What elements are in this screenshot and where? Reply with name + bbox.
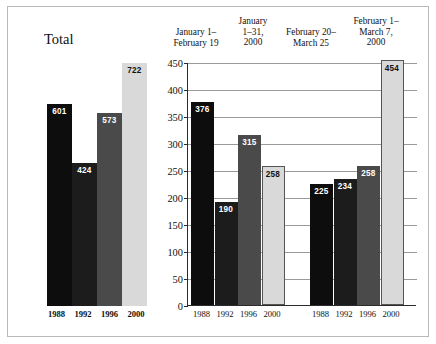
group1-bar-value-1988: 376 <box>191 105 214 114</box>
group2-bar-1988: 225 <box>310 184 333 306</box>
y-tick-label-200: 200 <box>153 193 183 204</box>
group1-bar-1988: 376 <box>191 102 214 305</box>
group2-bar-2000: 454 <box>381 60 404 305</box>
y-tick-350 <box>184 117 188 118</box>
y-tick-label-150: 150 <box>153 220 183 231</box>
total-panel-x-axis-labels: 1988199219962000 <box>44 309 150 323</box>
plot-x-axis-labels: 19881992199620001988199219962000 <box>187 309 419 323</box>
group2-bar-value-1996: 258 <box>357 169 380 178</box>
group1-bar-2000: 258 <box>262 166 285 305</box>
group1-bar-value-1996: 315 <box>238 138 261 147</box>
group1-bar-1996: 315 <box>238 135 261 305</box>
total-x-label-1988: 1988 <box>44 309 69 319</box>
plot-x-label-5: 1992 <box>332 309 356 319</box>
y-axis-tick-labels: 050100150200250300350400450 <box>151 63 183 306</box>
total-bar-value-1992: 424 <box>72 166 97 175</box>
group1-bar-value-2000: 258 <box>263 170 284 179</box>
group2-bar-1992: 234 <box>334 179 357 305</box>
y-tick-50 <box>184 279 188 280</box>
group1-bar-value-1992: 190 <box>215 205 238 214</box>
total-panel-bars: 601424573722 <box>47 50 147 306</box>
group2-bar-value-2000: 454 <box>382 64 403 73</box>
column-header-february-1-march-7-2000: February 1– March 7, 2000 <box>345 16 407 48</box>
column-header-january-1-february-19: January 1– February 19 <box>165 27 227 48</box>
plot-x-label-3: 2000 <box>260 309 284 319</box>
y-tick-label-450: 450 <box>153 58 183 69</box>
total-bar-1992: 424 <box>72 163 97 306</box>
y-tick-0 <box>184 306 188 307</box>
y-tick-label-250: 250 <box>153 166 183 177</box>
plot-x-label-2: 1996 <box>237 309 261 319</box>
y-tick-450 <box>184 63 188 64</box>
total-panel-title: Total <box>44 31 74 48</box>
y-tick-label-0: 0 <box>153 301 183 312</box>
chart-figure: January 1– February 19 January 1–31, 200… <box>0 0 436 344</box>
total-x-label-1996: 1996 <box>97 309 122 319</box>
y-tick-300 <box>184 144 188 145</box>
y-tick-label-400: 400 <box>153 85 183 96</box>
group1-bar-1992: 190 <box>215 202 238 305</box>
total-x-label-2000: 2000 <box>124 309 149 319</box>
group2-bar-value-1988: 225 <box>310 187 333 196</box>
plot-x-label-7: 2000 <box>379 309 403 319</box>
total-x-label-1992: 1992 <box>71 309 96 319</box>
total-bar-value-1996: 573 <box>97 116 122 125</box>
total-bar-value-2000: 722 <box>122 66 147 75</box>
total-bar-2000: 722 <box>122 63 147 306</box>
plot-x-label-1: 1992 <box>213 309 237 319</box>
y-tick-label-50: 50 <box>153 274 183 285</box>
plot-area: 376190315258225234258454 <box>187 63 416 306</box>
y-tick-400 <box>184 90 188 91</box>
y-tick-label-100: 100 <box>153 247 183 258</box>
column-header-february-20-march-25: February 20– March 25 <box>277 27 345 48</box>
y-tick-250 <box>184 171 188 172</box>
total-bar-1988: 601 <box>47 104 72 306</box>
y-tick-150 <box>184 225 188 226</box>
y-tick-100 <box>184 252 188 253</box>
group2-bar-value-1992: 234 <box>334 182 357 191</box>
plot-x-label-6: 1996 <box>356 309 380 319</box>
y-tick-200 <box>184 198 188 199</box>
column-header-january-1-31-2000: January 1–31, 2000 <box>229 16 277 48</box>
group2-bar-1996: 258 <box>357 166 380 305</box>
plot-x-label-0: 1988 <box>190 309 214 319</box>
y-tick-label-300: 300 <box>153 139 183 150</box>
y-tick-label-350: 350 <box>153 112 183 123</box>
total-bar-value-1988: 601 <box>47 107 72 116</box>
plot-x-label-4: 1988 <box>309 309 333 319</box>
total-bar-1996: 573 <box>97 113 122 306</box>
